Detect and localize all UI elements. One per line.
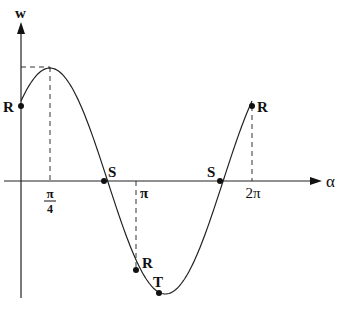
y-axis-arrow-icon: [17, 22, 25, 34]
dashed-guides: [21, 67, 252, 270]
point-r-start: [18, 103, 24, 109]
point-s-second: [217, 178, 223, 184]
label-s-first: S: [108, 164, 116, 180]
x-axis-arrow-icon: [310, 177, 322, 185]
y-axis-label: w: [15, 5, 26, 21]
point-r-end: [249, 103, 255, 109]
label-r-start: R: [3, 99, 14, 115]
tick-pi-over-4-numerator: π: [46, 186, 53, 201]
graph-canvas: w α R S R T S R π 4 π 2π: [0, 0, 341, 312]
label-t-minimum: T: [153, 274, 163, 290]
x-axis-label: α: [326, 172, 335, 191]
point-r-middle: [133, 267, 139, 273]
label-r-end: R: [257, 99, 268, 115]
tick-pi: π: [140, 185, 149, 201]
tick-two-pi: 2π: [245, 185, 261, 201]
point-t-minimum: [156, 290, 162, 296]
point-s-first: [101, 178, 107, 184]
label-r-middle: R: [142, 255, 153, 271]
tick-pi-over-4-denominator: 4: [47, 202, 53, 216]
label-s-second: S: [207, 164, 215, 180]
